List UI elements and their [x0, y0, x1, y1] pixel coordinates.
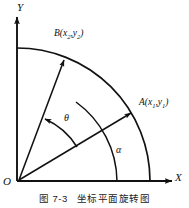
angle-theta-label: θ: [64, 113, 69, 123]
figure-caption-number: 图 7-3: [39, 193, 68, 204]
figure-caption-title: 坐标平面旋转图: [77, 193, 151, 204]
point-a-label: A(x1,y1): [139, 98, 168, 109]
vector-ob: [19, 60, 64, 180]
point-b-label: B(x2,y2): [54, 29, 83, 40]
point-b-close: ): [80, 28, 83, 38]
angle-alpha-label: α: [116, 145, 121, 155]
figure-container: Y X O B(x2,y2) A(x1,y1) θ α 图 7-3坐标平面旋转图: [0, 0, 189, 208]
unit-circle-arc: [17, 48, 150, 181]
origin-label: O: [3, 176, 11, 187]
angle-theta-arc: [45, 119, 77, 147]
vector-oa: [19, 113, 131, 180]
x-axis-label: X: [175, 172, 182, 183]
point-b-prefix: B(x: [54, 28, 67, 38]
y-axis-label: Y: [17, 2, 23, 13]
point-a-prefix: A(x: [139, 97, 152, 107]
point-a-close: ): [165, 97, 168, 107]
figure-caption: 图 7-3坐标平面旋转图: [0, 191, 189, 205]
